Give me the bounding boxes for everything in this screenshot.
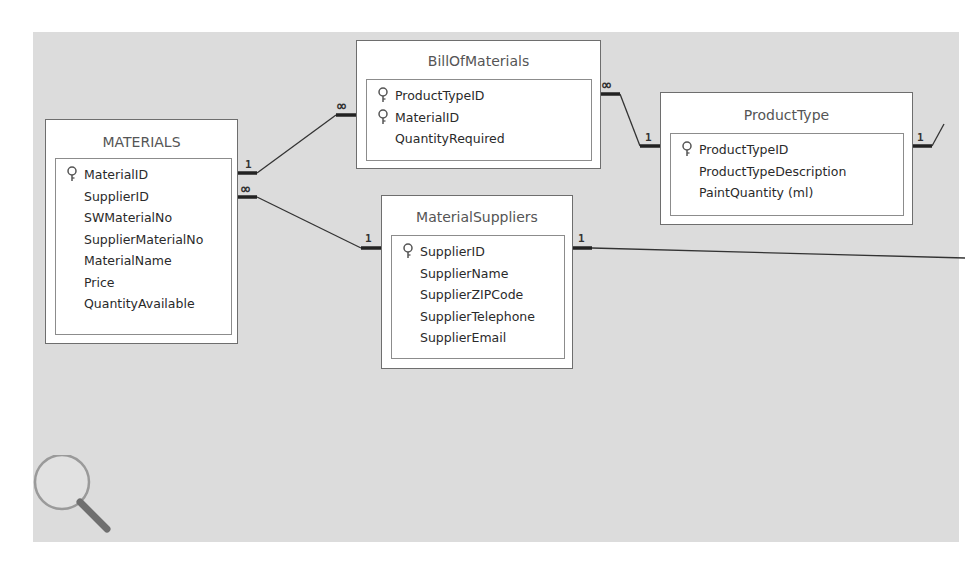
key-icon: [65, 164, 79, 185]
field-row[interactable]: ProductTypeID: [367, 85, 591, 107]
field-list[interactable]: MaterialID SupplierID SWMaterialNo Suppl…: [55, 158, 232, 335]
field-name: MaterialID: [84, 167, 148, 182]
field-list[interactable]: SupplierID SupplierName SupplierZIPCode …: [391, 235, 565, 359]
magnifier-icon[interactable]: [30, 455, 120, 535]
field-name: Price: [84, 275, 115, 290]
field-name: SupplierID: [84, 189, 149, 204]
field-row[interactable]: SupplierID: [56, 186, 231, 208]
field-row[interactable]: PaintQuantity (ml): [671, 182, 903, 204]
field-list[interactable]: ProductTypeID ProductTypeDescription Pai…: [670, 133, 904, 216]
field-name: MaterialName: [84, 253, 172, 268]
field-name: MaterialID: [395, 110, 459, 125]
cardinality-many: ∞: [602, 76, 611, 94]
field-name: ProductTypeID: [699, 142, 788, 157]
cardinality-one: 1: [245, 158, 252, 171]
field-name: SupplierEmail: [420, 330, 506, 345]
cardinality-many: ∞: [241, 180, 250, 198]
field-row[interactable]: QuantityAvailable: [56, 293, 231, 315]
field-list[interactable]: ProductTypeID MaterialID QuantityRequire…: [366, 79, 592, 161]
field-row[interactable]: ProductTypeID: [671, 139, 903, 161]
field-row[interactable]: MaterialName: [56, 250, 231, 272]
cardinality-one: 1: [645, 131, 652, 144]
field-row[interactable]: SWMaterialNo: [56, 207, 231, 229]
field-row[interactable]: Price: [56, 272, 231, 294]
field-name: SupplierName: [420, 266, 508, 281]
cardinality-one: 1: [578, 232, 585, 245]
key-icon: [401, 241, 415, 262]
field-name: SupplierZIPCode: [420, 287, 523, 302]
table-title: ProductType: [661, 107, 912, 123]
table-producttype[interactable]: ProductType ProductTypeID ProductTypeDes…: [660, 92, 913, 225]
key-icon: [376, 85, 390, 106]
field-row[interactable]: SupplierName: [392, 263, 564, 285]
key-icon: [376, 107, 390, 128]
field-row[interactable]: ProductTypeDescription: [671, 161, 903, 183]
cardinality-many: ∞: [337, 97, 346, 115]
table-materialsuppliers[interactable]: MaterialSuppliers SupplierID SupplierNam…: [381, 195, 573, 369]
field-row[interactable]: SupplierID: [392, 241, 564, 263]
table-title: MaterialSuppliers: [382, 209, 572, 225]
field-name: ProductTypeDescription: [699, 164, 846, 179]
table-materials[interactable]: MATERIALS MaterialID SupplierID SWMateri…: [45, 119, 238, 344]
field-name: PaintQuantity (ml): [699, 185, 813, 200]
field-name: ProductTypeID: [395, 88, 484, 103]
field-row[interactable]: SupplierEmail: [392, 327, 564, 349]
field-name: SWMaterialNo: [84, 210, 172, 225]
field-row[interactable]: SupplierZIPCode: [392, 284, 564, 306]
table-title: MATERIALS: [46, 134, 237, 150]
field-name: SupplierID: [420, 244, 485, 259]
field-row[interactable]: QuantityRequired: [367, 128, 591, 150]
cardinality-one: 1: [917, 131, 924, 144]
field-name: QuantityRequired: [395, 131, 505, 146]
field-row[interactable]: SupplierTelephone: [392, 306, 564, 328]
field-row[interactable]: MaterialID: [56, 164, 231, 186]
field-name: QuantityAvailable: [84, 296, 195, 311]
field-name: SupplierMaterialNo: [84, 232, 203, 247]
field-name: SupplierTelephone: [420, 309, 535, 324]
field-row[interactable]: MaterialID: [367, 107, 591, 129]
key-icon: [680, 139, 694, 160]
cardinality-one: 1: [365, 232, 372, 245]
field-row[interactable]: SupplierMaterialNo: [56, 229, 231, 251]
table-billofmaterials[interactable]: BillOfMaterials ProductTypeID MaterialID…: [356, 40, 601, 169]
table-title: BillOfMaterials: [357, 53, 600, 69]
